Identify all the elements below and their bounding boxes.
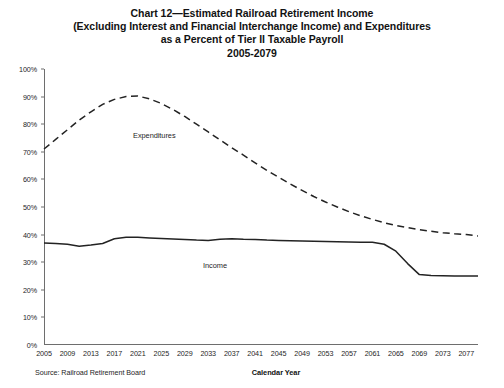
x-axis-tick-label: 2077 — [458, 349, 474, 358]
series-line-income — [44, 237, 478, 276]
x-axis-tick-label: 2069 — [412, 349, 428, 358]
y-axis-tick-label: 30% — [23, 258, 37, 267]
x-axis-tick-label: 2025 — [154, 349, 170, 358]
x-axis-tick-label: 2065 — [388, 349, 404, 358]
x-axis-tick-label: 2037 — [224, 349, 240, 358]
x-axis-tick-label: 2009 — [60, 349, 76, 358]
x-axis-tick-label: 2057 — [341, 349, 357, 358]
x-axis-tick-label: 2061 — [365, 349, 381, 358]
x-axis-tick-label: 2013 — [83, 349, 99, 358]
y-axis-tick-label: 20% — [23, 285, 37, 294]
x-axis-tick-label: 2073 — [435, 349, 451, 358]
chart-title: Chart 12—Estimated Railroad Retirement I… — [0, 7, 504, 60]
y-axis-tick-label: 70% — [23, 147, 37, 156]
y-axis-tick-label: 40% — [23, 230, 37, 239]
series-label-income: Income — [203, 261, 227, 270]
y-axis-tick-label: 100% — [19, 65, 37, 74]
y-axis-tick-label: 10% — [23, 313, 37, 322]
x-axis-tick-label: 2029 — [177, 349, 193, 358]
x-axis-tick-label: 2045 — [271, 349, 287, 358]
x-axis-title: Calendar Year — [0, 368, 504, 377]
chart-title-line-2: (Excluding Interest and Financial Interc… — [0, 20, 504, 33]
x-axis-tick-label: 2021 — [130, 349, 146, 358]
series-label-expenditures: Expenditures — [133, 131, 176, 140]
chart-footer: Source: Railroad Retirement Board Calend… — [0, 368, 504, 382]
x-axis-tick-label: 2041 — [247, 349, 263, 358]
x-axis-tick-label: 2017 — [107, 349, 123, 358]
x-axis-labels: 2005200920132017202120252029203320372041… — [0, 349, 504, 363]
series-line-expenditures — [44, 96, 478, 236]
x-axis-tick-label: 2053 — [318, 349, 334, 358]
chart-container: Chart 12—Estimated Railroad Retirement I… — [0, 0, 504, 388]
y-axis-labels: 0%10%20%30%40%50%60%70%80%90%100% — [0, 0, 44, 388]
y-axis-tick-label: 90% — [23, 92, 37, 101]
series-lines — [44, 69, 478, 345]
y-axis-tick-label: 60% — [23, 175, 37, 184]
y-axis-tick-label: 80% — [23, 120, 37, 129]
x-axis-title-text: Calendar Year — [252, 368, 301, 377]
chart-title-line-3: as a Percent of Tier II Taxable Payroll — [0, 33, 504, 46]
chart-title-line-4: 2005-2079 — [0, 47, 504, 60]
x-axis-tick-label: 2033 — [200, 349, 216, 358]
plot-area — [44, 69, 478, 345]
x-axis-tick-label: 2005 — [36, 349, 52, 358]
chart-title-line-1: Chart 12—Estimated Railroad Retirement I… — [0, 7, 504, 20]
y-axis-tick-label: 50% — [23, 203, 37, 212]
x-axis-tick-label: 2049 — [294, 349, 310, 358]
